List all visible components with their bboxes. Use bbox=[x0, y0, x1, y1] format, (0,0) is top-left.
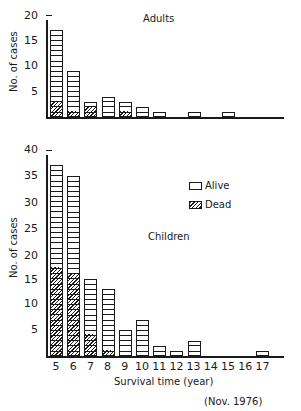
legend-alive-label: Alive bbox=[205, 180, 229, 191]
x-tick: 11 bbox=[151, 360, 167, 373]
adults-ytick: 5 bbox=[16, 85, 38, 98]
case-divider bbox=[68, 268, 79, 269]
case-divider bbox=[68, 81, 79, 82]
case-divider bbox=[51, 340, 62, 341]
case-divider bbox=[51, 96, 62, 97]
case-divider bbox=[51, 196, 62, 197]
case-divider bbox=[103, 112, 114, 113]
case-divider bbox=[51, 45, 62, 46]
case-divider bbox=[120, 106, 131, 107]
bar bbox=[50, 165, 63, 356]
case-divider bbox=[68, 91, 79, 92]
case-divider bbox=[51, 81, 62, 82]
case-divider bbox=[51, 309, 62, 310]
case-divider bbox=[68, 258, 79, 259]
case-divider bbox=[51, 242, 62, 243]
alive-swatch-icon bbox=[189, 182, 202, 190]
children-ytick: 15 bbox=[16, 273, 38, 286]
case-divider bbox=[120, 112, 131, 113]
case-divider bbox=[85, 106, 96, 107]
case-divider bbox=[68, 196, 79, 197]
case-divider bbox=[85, 315, 96, 316]
case-divider bbox=[85, 289, 96, 290]
bar bbox=[188, 112, 201, 117]
case-divider bbox=[51, 268, 62, 269]
adults-ytick: 15 bbox=[16, 34, 38, 47]
case-divider bbox=[51, 175, 62, 176]
x-tick: 8 bbox=[100, 360, 116, 373]
case-divider bbox=[51, 101, 62, 102]
case-divider bbox=[51, 222, 62, 223]
case-divider bbox=[51, 61, 62, 62]
case-divider bbox=[51, 248, 62, 249]
legend-dead: Dead bbox=[189, 199, 231, 210]
case-divider bbox=[103, 335, 114, 336]
case-divider bbox=[68, 253, 79, 254]
case-divider bbox=[51, 335, 62, 336]
adults-ytick: 20 bbox=[16, 9, 38, 22]
case-divider bbox=[120, 340, 131, 341]
case-divider bbox=[85, 112, 96, 113]
case-divider bbox=[103, 309, 114, 310]
case-divider bbox=[51, 217, 62, 218]
case-divider bbox=[120, 351, 131, 352]
children-ytick: 40 bbox=[16, 143, 38, 156]
case-divider bbox=[68, 263, 79, 264]
bar bbox=[119, 330, 132, 356]
case-divider bbox=[68, 237, 79, 238]
case-divider bbox=[51, 299, 62, 300]
case-divider bbox=[137, 340, 148, 341]
case-divider bbox=[68, 273, 79, 274]
bar bbox=[170, 351, 183, 356]
case-divider bbox=[68, 212, 79, 213]
case-divider bbox=[68, 289, 79, 290]
case-divider bbox=[68, 232, 79, 233]
bar bbox=[188, 341, 201, 356]
case-divider bbox=[68, 278, 79, 279]
case-divider bbox=[85, 284, 96, 285]
case-divider bbox=[68, 284, 79, 285]
case-divider bbox=[103, 351, 114, 352]
case-divider bbox=[51, 112, 62, 113]
x-tick: 12 bbox=[168, 360, 184, 373]
children-ytick: 25 bbox=[16, 222, 38, 235]
bar bbox=[153, 346, 166, 356]
case-divider bbox=[51, 304, 62, 305]
bar bbox=[136, 320, 149, 356]
case-divider bbox=[51, 91, 62, 92]
case-divider bbox=[85, 330, 96, 331]
case-divider bbox=[103, 314, 114, 315]
case-divider bbox=[137, 345, 148, 346]
x-tick: 7 bbox=[82, 360, 98, 373]
case-divider bbox=[68, 330, 79, 331]
bar bbox=[102, 289, 115, 356]
case-divider bbox=[68, 320, 79, 321]
case-divider bbox=[51, 186, 62, 187]
x-tick: 14 bbox=[203, 360, 219, 373]
case-divider bbox=[68, 248, 79, 249]
dead-segment bbox=[51, 267, 62, 355]
case-divider bbox=[137, 335, 148, 336]
case-divider bbox=[51, 211, 62, 212]
case-divider bbox=[51, 35, 62, 36]
case-divider bbox=[68, 345, 79, 346]
adults-y-axis bbox=[46, 20, 48, 118]
case-divider bbox=[51, 227, 62, 228]
case-divider bbox=[103, 299, 114, 300]
case-divider bbox=[51, 71, 62, 72]
tickmark bbox=[46, 15, 52, 16]
case-divider bbox=[137, 112, 148, 113]
case-divider bbox=[51, 289, 62, 290]
case-divider bbox=[51, 325, 62, 326]
dead-segment bbox=[51, 101, 62, 116]
case-divider bbox=[68, 222, 79, 223]
case-divider bbox=[68, 186, 79, 187]
case-divider bbox=[68, 181, 79, 182]
case-divider bbox=[68, 299, 79, 300]
case-divider bbox=[68, 217, 79, 218]
children-y-axis bbox=[46, 155, 48, 357]
case-divider bbox=[103, 101, 114, 102]
children-ytick: 20 bbox=[16, 249, 38, 262]
case-divider bbox=[189, 345, 200, 346]
case-divider bbox=[68, 206, 79, 207]
